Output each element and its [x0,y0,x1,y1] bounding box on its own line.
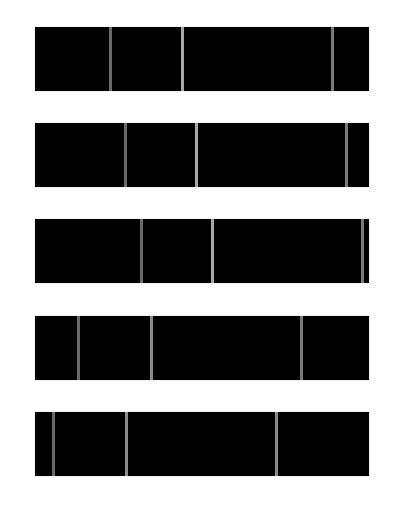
segmented-bar-3 [35,219,369,283]
segmented-bar-1 [35,27,369,91]
divider-line [140,219,143,283]
divider-line [345,123,348,187]
divider-line [211,219,214,283]
divider-line [331,27,334,91]
divider-line [195,123,198,187]
segmented-bar-5 [35,412,369,476]
divider-line [275,412,278,476]
divider-line [109,27,112,91]
segmented-bar-4 [35,316,369,380]
divider-line [124,123,127,187]
divider-line [125,412,128,476]
divider-line [52,412,55,476]
segmented-bar-2 [35,123,369,187]
divider-line [150,316,153,380]
divider-line [361,219,364,283]
divider-line [181,27,184,91]
divider-line [77,316,80,380]
divider-line [300,316,303,380]
